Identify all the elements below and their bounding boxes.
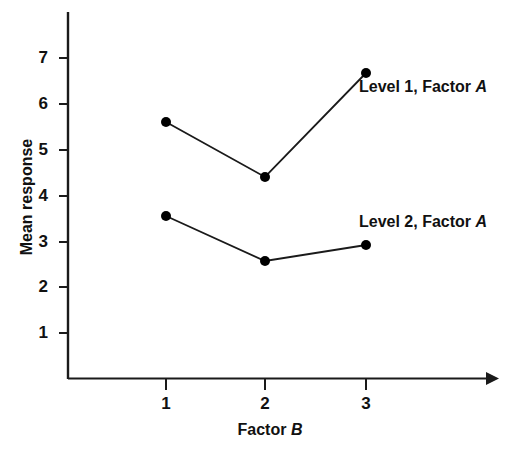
- x-axis-title-text: Factor: [238, 421, 291, 438]
- data-point-marker: [260, 256, 270, 266]
- x-tick-label-3: 3: [353, 394, 379, 414]
- series-annotation-level-2-text: Level 2, Factor: [359, 213, 476, 230]
- y-axis-title: Mean response: [18, 137, 36, 257]
- y-tick-label-2: 2: [22, 277, 48, 297]
- series-annotation-level-1-symbol: A: [476, 78, 488, 95]
- x-tick-marks: [166, 378, 366, 390]
- data-point-marker: [361, 240, 371, 250]
- series-markers-level-1: [161, 68, 371, 182]
- chart-figure: 7 6 5 4 3 2 1 1 2 3 Mean response Factor…: [0, 0, 510, 456]
- y-tick-marks: [59, 58, 68, 333]
- y-tick-label-7: 7: [22, 48, 48, 68]
- y-tick-label-6: 6: [22, 94, 48, 114]
- series-line-level-1: [166, 73, 366, 177]
- series-annotation-level-1-text: Level 1, Factor: [359, 78, 476, 95]
- series-annotation-level-2: Level 2, Factor A: [359, 213, 487, 231]
- series-annotation-level-2-symbol: A: [476, 213, 488, 230]
- x-axis-title: Factor B: [200, 421, 340, 439]
- data-point-marker: [161, 117, 171, 127]
- series-line-level-2: [166, 216, 366, 261]
- data-point-marker: [161, 211, 171, 221]
- series-annotation-level-1: Level 1, Factor A: [359, 78, 487, 96]
- x-tick-label-2: 2: [252, 394, 278, 414]
- arrow-right-icon: [486, 372, 499, 385]
- x-axis-title-symbol: B: [291, 421, 303, 438]
- y-tick-label-1: 1: [22, 323, 48, 343]
- data-point-marker: [361, 68, 371, 78]
- series-markers-level-2: [161, 211, 371, 266]
- data-point-marker: [260, 172, 270, 182]
- x-tick-label-1: 1: [153, 394, 179, 414]
